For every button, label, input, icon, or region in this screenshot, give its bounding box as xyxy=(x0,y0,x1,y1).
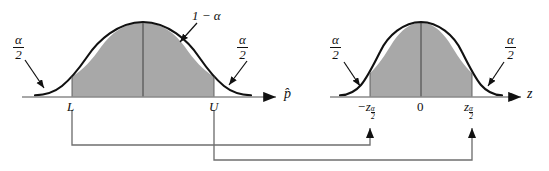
tick-label-neg-z-alpha-half: −z α 2 xyxy=(357,99,375,121)
alpha-over-2-subscript: α 2 xyxy=(371,105,375,121)
subscript-numerator: α xyxy=(371,105,375,113)
right-tail-alpha-arrow-left-panel xyxy=(229,61,247,85)
tick-label-U: U xyxy=(209,99,218,115)
two-denominator: 2 xyxy=(505,48,516,61)
two-denominator: 2 xyxy=(237,48,248,61)
alpha-numerator: α xyxy=(330,33,341,46)
alpha-over-2-right-tail-label: α 2 xyxy=(237,33,248,63)
alpha-numerator: α xyxy=(505,33,516,46)
subscript-denominator: 2 xyxy=(371,113,375,121)
alpha-numerator: α xyxy=(13,33,24,46)
connector-L-to-neg-z xyxy=(72,110,370,145)
left-tail-alpha-arrow-right-panel xyxy=(344,62,360,86)
neg-z-base: −z xyxy=(357,99,371,114)
alpha-over-2-left-tail-label-right-panel: α 2 xyxy=(330,33,341,63)
two-denominator: 2 xyxy=(330,48,341,61)
right-tail-alpha-arrow-right-panel xyxy=(488,62,504,86)
diagram-svg xyxy=(0,0,549,171)
x-axis-label-phat: p̂ xyxy=(284,86,291,102)
alpha-over-2-subscript: α 2 xyxy=(469,105,473,121)
alpha-over-2-left-tail-label: α 2 xyxy=(13,33,24,63)
alpha-over-2-right-tail-label-right-panel: α 2 xyxy=(505,33,516,63)
subscript-denominator: 2 xyxy=(469,113,473,121)
one-minus-alpha-label: 1 − α xyxy=(192,8,221,24)
alpha-numerator: α xyxy=(237,33,248,46)
subscript-numerator: α xyxy=(469,105,473,113)
diagram-canvas: α 2 1 − α α 2 L U p̂ α 2 α 2 −z α xyxy=(0,0,549,171)
tick-label-pos-z-alpha-half: z α 2 xyxy=(464,99,473,121)
tick-label-zero: 0 xyxy=(417,99,424,115)
two-denominator: 2 xyxy=(13,48,24,61)
tick-label-L: L xyxy=(67,99,74,115)
connector-U-to-pos-z xyxy=(214,110,472,160)
x-axis-label-z: z xyxy=(527,86,532,102)
left-tail-alpha-arrow xyxy=(25,60,44,88)
one-minus-alpha-arrow xyxy=(180,23,197,42)
